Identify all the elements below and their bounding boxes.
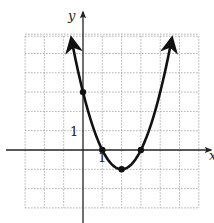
x-axis-label: x: [209, 148, 214, 163]
parabola-graph: y x 1 1: [0, 0, 214, 223]
x-tick-label-1: 1: [98, 150, 106, 165]
y-axis-label: y: [67, 8, 76, 23]
point-0: [80, 89, 86, 95]
grid: [25, 34, 199, 208]
point-3: [138, 147, 144, 153]
y-tick-label-1: 1: [70, 124, 78, 139]
point-2: [118, 166, 124, 172]
